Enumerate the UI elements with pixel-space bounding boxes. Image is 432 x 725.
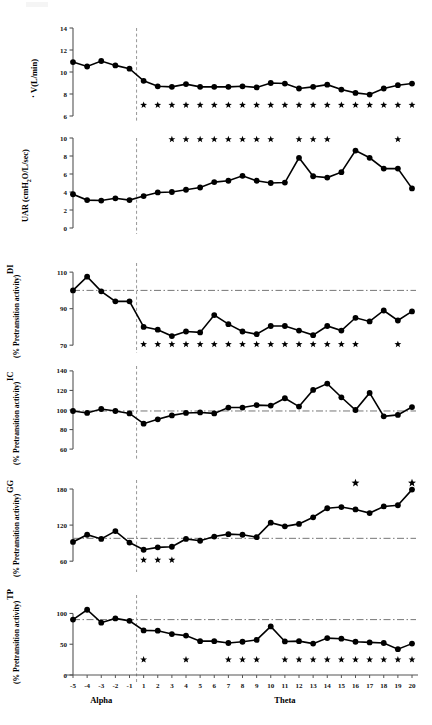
figure-container: 68101214V·(L/min)0246810UAR (cmH2O/L/sec… (0, 0, 432, 725)
data-point (310, 84, 316, 90)
y-tick-label: 4 (64, 189, 68, 197)
data-point (211, 179, 217, 185)
data-point (353, 90, 359, 96)
significance-star (183, 341, 190, 348)
y-tick-label: 12 (60, 47, 68, 55)
data-point (240, 173, 246, 179)
y-axis-label-text: GG (6, 479, 29, 492)
data-point (338, 328, 344, 334)
y-tick-label: 120 (57, 522, 68, 530)
data-point (183, 187, 189, 193)
significance-star (168, 341, 175, 348)
significance-star (267, 341, 274, 348)
data-point (141, 627, 147, 633)
data-point (127, 66, 133, 72)
panel-d-ic: 6080100120140 (0, 358, 432, 470)
data-line (73, 384, 412, 424)
data-point (155, 544, 161, 550)
data-point (197, 410, 203, 416)
data-point (324, 323, 330, 329)
x-tick-label: -2 (112, 682, 118, 690)
data-point (141, 324, 147, 330)
significance-star (394, 341, 401, 348)
significance-star (352, 341, 359, 348)
x-tick-label: 9 (255, 682, 259, 690)
data-point (381, 413, 387, 419)
significance-star (211, 136, 218, 143)
significance-star (197, 341, 204, 348)
panel-f-tp: 050100-5-4-3-2-1123456789101112131415161… (0, 583, 432, 725)
y-tick-label: 60 (60, 446, 68, 454)
x-tick-label: 14 (324, 682, 332, 690)
data-point (169, 84, 175, 90)
y-tick-label: 80 (60, 426, 68, 434)
y-axis-label-a: V·(L/min) (30, 30, 39, 122)
x-tick-label: 8 (241, 682, 245, 690)
data-line (73, 490, 412, 550)
data-point (211, 84, 217, 90)
y-axis-label-text: TP (6, 589, 29, 600)
data-point (296, 521, 302, 527)
data-point (70, 539, 76, 545)
y-axis-label-text: IC (6, 371, 29, 380)
data-point (197, 538, 203, 544)
data-point (254, 534, 260, 540)
data-point (254, 402, 260, 408)
data-point (310, 641, 316, 647)
significance-star (366, 656, 373, 663)
data-point (98, 58, 104, 64)
significance-star (409, 101, 416, 108)
significance-star (211, 101, 218, 108)
data-point (225, 640, 231, 646)
data-point (409, 308, 415, 314)
y-axis-label-b: UAR (cmH2O/L/sec) (22, 132, 32, 240)
data-point (98, 406, 104, 412)
y-tick-label: 60 (60, 558, 68, 566)
x-group-label-alpha: Alpha (90, 695, 113, 705)
data-point (84, 197, 90, 203)
significance-star (253, 101, 260, 108)
x-tick-label: 6 (213, 682, 217, 690)
plot-area-c: 7090110 (0, 255, 432, 363)
significance-star (197, 136, 204, 143)
panel-c-di: 7090110 (0, 255, 432, 363)
y-axis-sublabel-text: (% Pretransition activity) (13, 601, 21, 684)
y-tick-label: 6 (64, 171, 68, 179)
data-point (381, 308, 387, 314)
data-point (183, 410, 189, 416)
significance-star (281, 341, 288, 348)
y-axis-label-c: (% Pretransition activity)DI (6, 258, 29, 358)
data-point (155, 83, 161, 89)
significance-star (324, 656, 331, 663)
y-tick-label: 6 (64, 113, 68, 121)
significance-star (310, 656, 317, 663)
significance-star (338, 341, 345, 348)
data-point (84, 274, 90, 280)
data-point (183, 536, 189, 542)
data-point (197, 638, 203, 644)
significance-star (225, 656, 232, 663)
data-point (282, 81, 288, 87)
data-point (127, 618, 133, 624)
data-point (324, 175, 330, 181)
x-tick-label: 2 (156, 682, 160, 690)
y-tick-label: 10 (60, 69, 68, 77)
data-point (127, 411, 133, 417)
data-point (324, 381, 330, 387)
data-point (254, 85, 260, 91)
data-point (225, 178, 231, 184)
data-point (169, 631, 175, 637)
significance-star (296, 136, 303, 143)
x-group-label-theta: Theta (274, 695, 296, 705)
significance-star (296, 101, 303, 108)
data-point (409, 487, 415, 493)
data-point (296, 155, 302, 161)
data-point (240, 405, 246, 411)
x-tick-label: -3 (98, 682, 104, 690)
x-tick-label: 1 (142, 682, 146, 690)
data-point (155, 190, 161, 196)
data-point (310, 514, 316, 520)
data-point (381, 504, 387, 510)
data-point (367, 390, 373, 396)
y-tick-label: 120 (57, 387, 68, 395)
